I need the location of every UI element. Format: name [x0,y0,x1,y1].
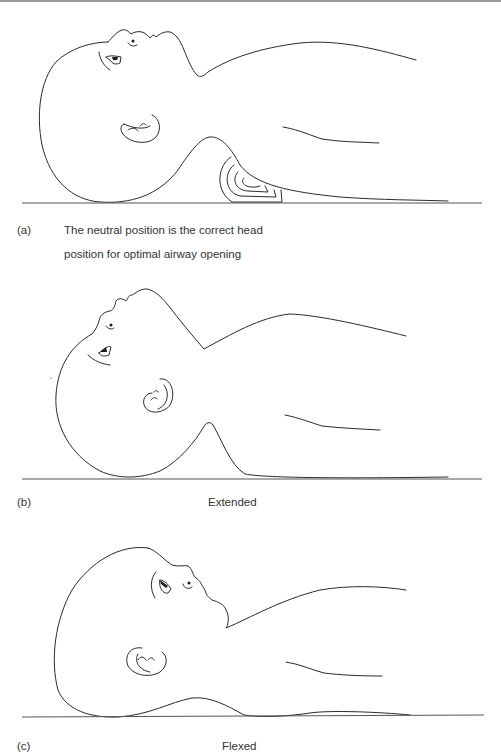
ear [121,115,160,142]
panel-a-caption-line1: The neutral position is the correct head [64,224,263,236]
eye-dot [132,40,135,43]
infant-extended-illustration [0,265,501,510]
panel-c-caption: Flexed [222,740,257,752]
infant-flexed-illustration [0,510,501,753]
mouth-line [99,52,110,70]
eye-dot [188,582,191,585]
arm-line [283,127,379,143]
arm-line [285,415,380,430]
face-profile [92,289,406,349]
towel-roll [220,157,282,202]
mouth-line [88,355,110,365]
ear [127,648,167,676]
ear [144,379,173,412]
head-outline [54,547,410,717]
panel-a-caption-line2: position for optimal airway opening [64,248,241,260]
panel-a-neutral: (a) The neutral position is the correct … [0,0,501,265]
face-profile [108,30,416,77]
panel-b-caption: Extended [208,496,257,508]
panel-c-letter: (c) [17,740,30,752]
nostril [128,43,137,46]
panel-a-letter: (a) [17,224,31,236]
panel-b-extended: (b) Extended [0,265,501,510]
panel-b-letter: (b) [17,496,31,508]
arm-line [286,662,382,676]
eye-dot [110,324,113,327]
mouth-line [151,572,156,598]
head-outline [56,334,448,478]
stray-mark [50,377,51,378]
panel-c-flexed: (c) Flexed [0,510,501,753]
